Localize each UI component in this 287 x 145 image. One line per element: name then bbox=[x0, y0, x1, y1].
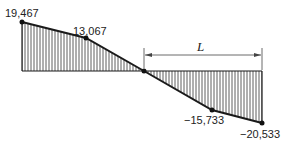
arrowhead-right-icon bbox=[254, 53, 261, 57]
point-5 bbox=[260, 121, 265, 126]
point-1 bbox=[20, 20, 25, 25]
point-4 bbox=[210, 108, 215, 113]
value-label-2: 13,067 bbox=[73, 26, 107, 37]
arrowhead-left-icon bbox=[145, 53, 152, 57]
value-label-4: −20,533 bbox=[240, 129, 280, 140]
shear-diagram bbox=[0, 0, 287, 145]
value-label-3: −15,733 bbox=[184, 115, 224, 126]
point-3 bbox=[142, 69, 147, 74]
value-label-1: 19,467 bbox=[5, 8, 39, 19]
dimension-label: L bbox=[197, 40, 204, 53]
